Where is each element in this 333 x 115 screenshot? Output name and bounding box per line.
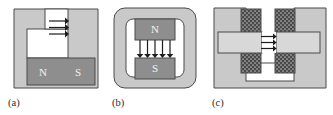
air-gap-slot-a: [27, 29, 68, 58]
panel-a: N S (a): [0, 0, 105, 115]
panel-a-caption: (a): [8, 97, 20, 109]
upper-gap-channel-a: [45, 9, 68, 29]
panel-b-caption: (b): [112, 97, 125, 109]
south-pole-label-b: S: [152, 62, 158, 74]
north-pole-label-a: N: [39, 66, 47, 78]
panel-c: (c): [208, 0, 333, 115]
flux-arrows-c: [261, 33, 277, 51]
panel-a-diagram: N S (a): [0, 0, 105, 115]
panel-b-diagram: N S: [105, 0, 208, 115]
pole-piece-right-c: [276, 32, 320, 53]
south-pole-label-a: S: [75, 66, 81, 78]
flux-arrows-a: [49, 18, 69, 38]
permanent-magnet-a: [27, 58, 95, 85]
figure-root: N S (a): [0, 0, 333, 115]
north-pole-label-b: N: [151, 23, 159, 35]
pole-piece-left-c: [218, 32, 262, 53]
panel-b: N S: [105, 0, 208, 115]
panel-c-diagram: (c): [208, 0, 333, 115]
panel-c-caption: (c): [212, 97, 224, 109]
